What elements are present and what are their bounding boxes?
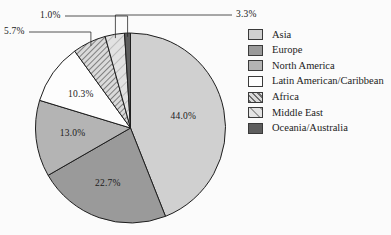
leader-line	[29, 32, 91, 46]
legend-item-middle-east[interactable]: Middle East	[248, 105, 390, 121]
legend-item-europe[interactable]: Europe	[248, 43, 390, 59]
legend-swatch-europe	[248, 45, 263, 56]
slice-percentage-label: 3.3%	[236, 9, 257, 19]
legend-swatch-north-america	[248, 60, 263, 71]
legend-item-latin-american-caribbean[interactable]: Latin American/Caribbean	[248, 74, 390, 90]
legend-label-latin-american-caribbean: Latin American/Caribbean	[272, 76, 384, 87]
legend-swatch-africa	[248, 92, 263, 103]
slice-percentage-label: 10.3%	[68, 89, 94, 99]
legend-swatch-latin-american-caribbean	[248, 76, 263, 87]
legend-label-europe: Europe	[272, 45, 302, 56]
slice-percentage-label: 5.7%	[4, 26, 25, 36]
legend-label-oceania-australia: Oceania/Australia	[272, 123, 348, 134]
slice-percentage-label: 1.0%	[40, 10, 61, 20]
legend-label-middle-east: Middle East	[272, 108, 323, 119]
slice-percentage-label: 44.0%	[170, 111, 196, 121]
legend: Asia Europe North America Latin American…	[248, 27, 390, 136]
slice-percentage-label: 22.7%	[95, 178, 121, 188]
pie-chart-figure: 44.0%22.7%13.0%10.3%5.7%3.3%1.0% Asia Eu…	[0, 0, 391, 235]
legend-label-asia: Asia	[272, 30, 291, 41]
legend-item-asia[interactable]: Asia	[248, 27, 390, 43]
legend-item-africa[interactable]: Africa	[248, 89, 390, 105]
legend-label-north-america: North America	[272, 61, 335, 72]
legend-swatch-middle-east	[248, 107, 263, 118]
legend-item-north-america[interactable]: North America	[248, 58, 390, 74]
slice-percentage-label: 13.0%	[60, 128, 86, 138]
legend-item-oceania-australia[interactable]: Oceania/Australia	[248, 121, 390, 137]
legend-label-africa: Africa	[272, 92, 299, 103]
legend-swatch-oceania-australia	[248, 123, 263, 134]
legend-swatch-asia	[248, 29, 263, 40]
